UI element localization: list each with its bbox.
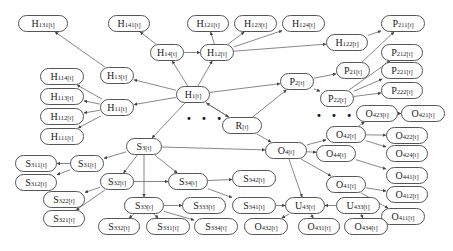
node-label-subscript: 34[t] [184,180,197,187]
edge-s3-to-s31 [104,152,126,159]
edge-h11-to-h112 [84,110,100,113]
node-p2: P2[t] [280,73,314,90]
node-s311: S311[t] [15,155,57,172]
node-s341: S341[t] [232,197,276,214]
node-h141: H141[t] [108,15,150,32]
edge-h11-to-h113 [84,101,100,104]
node-label-subscript: 333[t] [199,204,215,211]
ellipsis-dots-left: • • • [186,113,225,124]
node-label-subscript: 332[t] [114,225,130,232]
node-h12: H12[t] [200,44,234,61]
node-o434: O434[t] [344,218,388,235]
node-label-subscript: 322[t] [59,198,75,205]
node-label-subscript: 44[t] [333,152,346,159]
edge-h1-to-h13 [134,80,176,91]
node-label-subscript: 22[t] [333,97,346,104]
edge-s31-to-s312 [57,170,70,175]
node-label-base: H [117,19,124,29]
node-label-subscript: 321[t] [59,217,75,224]
node-label-base: O [395,171,402,181]
edge-s3-to-s32 [124,155,138,173]
node-label-subscript: 12[t] [214,51,227,58]
node-label-base: O [395,190,402,200]
edge-o42-to-o424 [366,141,386,147]
node-label-subscript: 211[t] [398,22,414,29]
node-h13: H13[t] [100,67,134,84]
node-o41: O41[t] [326,176,366,193]
node-label-base: U [295,201,302,211]
node-label-subscript: 412[t] [403,193,419,200]
node-label-subscript: 312[t] [31,181,47,188]
node-label-subscript: 431[t] [315,225,331,232]
node-label-base: H [207,48,214,58]
edge-s3-to-s34 [155,155,178,173]
node-label-base: O [365,109,372,119]
node-p212: P212[t] [381,44,423,61]
node-label-base: O [307,222,314,232]
edge-h12-to-h123 [228,32,244,44]
node-label-subscript: 432[t] [262,225,278,232]
node-label-subscript: 434[t] [362,225,378,232]
node-label-base: H [292,19,299,29]
node-label-subscript: 334[t] [211,225,227,232]
node-p22: P22[t] [320,90,354,107]
node-label-subscript: 433[t] [354,204,370,211]
node-label-subscript: 421[t] [419,112,435,119]
node-label-subscript: 13[t] [114,74,127,81]
edge-u43-to-o432 [282,214,289,218]
edge-o44-to-o441 [356,160,386,169]
node-label-subscript: 141[t] [125,22,141,29]
node-o412: O412[t] [386,186,428,203]
node-label-subscript: 11[t] [114,106,126,113]
node-p21: P21[t] [336,62,370,79]
node-p221: P221[t] [381,62,423,79]
node-s31: S31[t] [70,155,104,172]
node-label-base: H [244,19,251,29]
node-label-base: O [278,146,285,156]
edge-r-to-p2 [253,90,287,117]
node-label-subscript: 123[t] [251,22,267,29]
node-label-base: O [254,222,261,232]
node-label-subscript: 33[t] [140,204,153,211]
node-label-subscript: 31[t] [83,162,96,169]
node-h122: H122[t] [326,34,368,51]
node-h112: H112[t] [40,108,84,125]
edge-o41-to-o412 [366,188,386,191]
edge-h12-to-h124 [234,31,282,47]
node-label-base: H [51,112,58,122]
node-h113: H113[t] [40,88,84,105]
edge-h13-to-h131 [55,32,105,67]
edge-h14-to-h141 [140,32,156,44]
node-label-subscript: 411[t] [399,215,415,222]
node-label-subscript: 131[t] [39,22,55,29]
node-p211: P211[t] [381,15,425,32]
node-h114: H114[t] [40,68,84,85]
node-label-subscript: 331[t] [163,225,179,232]
node-label-base: U [346,201,353,211]
node-label-subscript: 112[t] [58,115,74,122]
node-label-subscript: 14[t] [164,51,177,58]
node-label-subscript: 424[t] [403,152,419,159]
node-label-subscript: 114[t] [58,75,74,82]
node-label-subscript: 212[t] [397,51,413,58]
node-label-subscript: 41[t] [343,183,356,190]
node-r: R[t] [222,117,262,134]
node-label-subscript: [t] [242,124,248,131]
node-h121: H121[t] [187,15,229,32]
node-label-base: O [392,212,399,222]
node-label-base: H [107,71,114,81]
edge-h1-to-s3 [152,103,185,138]
state-diagram-canvas: H131[t]H141[t]H121[t]H123[t]H124[t]P211[… [0,0,453,251]
node-label-subscript: 4[t] [285,149,294,156]
node-label-subscript: 124[t] [299,22,315,29]
node-label-base: O [411,109,418,119]
node-o44: O44[t] [316,145,356,162]
node-label-base: O [336,180,343,190]
node-label-base: H [51,132,58,142]
node-label-subscript: 42[t] [343,133,356,140]
node-o4: O4[t] [265,142,307,159]
node-label-base: H [157,48,164,58]
edge-h1-to-h12 [198,61,212,86]
node-s331: S331[t] [146,218,190,235]
node-label-subscript: 422[t] [403,134,419,141]
